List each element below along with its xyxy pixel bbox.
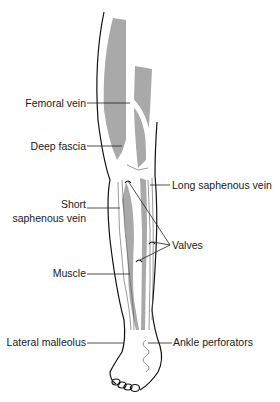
ankle-perforator-loops xyxy=(143,340,149,372)
toes xyxy=(112,379,140,392)
calf-line-5 xyxy=(127,165,148,170)
label-deep-fascia: Deep fascia xyxy=(31,140,87,152)
label-femoral-vein: Femoral vein xyxy=(25,97,86,109)
label-lateral-malleolus: Lateral malleolus xyxy=(7,336,86,348)
label-short-saphenous-line1: Short xyxy=(61,198,86,210)
label-ankle-perforators: Ankle perforators xyxy=(173,336,253,348)
valve-lower xyxy=(136,260,142,262)
leader-valves-2 xyxy=(153,242,170,245)
label-valves: Valves xyxy=(172,239,203,251)
calf-muscle-left xyxy=(122,182,139,330)
thigh-muscle-left xyxy=(104,18,126,160)
label-short-saphenous-line2: saphenous vein xyxy=(12,212,86,224)
label-long-saphenous-vein: Long saphenous vein xyxy=(172,179,272,191)
leg-vein-diagram: Femoral vein Deep fascia Long saphenous … xyxy=(0,0,280,402)
label-muscle: Muscle xyxy=(53,267,86,279)
